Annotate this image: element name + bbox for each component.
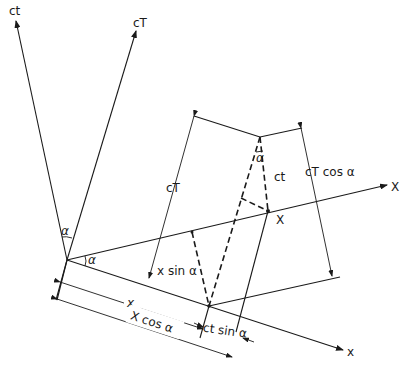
alpha-angle-event: α (256, 151, 264, 165)
x-axis: x (67, 260, 354, 359)
ct-sin-alpha-dimension: ct sin α (194, 321, 254, 342)
X-axis: X (67, 180, 399, 260)
bottom-connector (209, 277, 340, 306)
ct-segment-label: ct (274, 170, 286, 184)
cT-dimension: cT (149, 116, 194, 278)
ct-axis-label: ct (9, 4, 21, 18)
cT-axis: cT (67, 16, 148, 260)
alpha-angle-top: α (61, 224, 72, 238)
svg-text:X: X (276, 213, 284, 227)
x-sin-alpha-label: x sin α (157, 264, 197, 278)
origin-extension (57, 260, 67, 300)
svg-text:ct sin α: ct sin α (202, 321, 248, 341)
svg-text:cT cos α: cT cos α (305, 165, 355, 179)
cT-axis-label: cT (133, 16, 148, 30)
event-vertical-line (236, 211, 268, 332)
svg-text:α: α (61, 224, 69, 238)
spacetime-diagram: ct cT X x α α cT cT cos α (0, 0, 409, 370)
cT-cos-alpha-dimension: cT cos α (301, 128, 355, 276)
ct-axis: ct (9, 4, 67, 260)
top-connector-right (260, 128, 302, 137)
svg-text:α: α (88, 253, 96, 267)
top-connector-left (194, 116, 260, 137)
dashed-foot-point (191, 231, 194, 234)
X-axis-label: X (391, 180, 399, 194)
x-axis-label: x (347, 345, 354, 359)
svg-text:α: α (256, 151, 264, 165)
svg-text:cT: cT (166, 181, 181, 195)
